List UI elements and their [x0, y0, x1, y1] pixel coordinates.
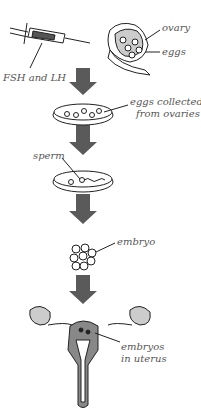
eggs-label: eggs	[162, 46, 186, 57]
embryo-label: embryo	[117, 236, 155, 247]
eggs-collected-label-2: from ovaries	[136, 108, 200, 119]
embryos-uterus-label-1: embryos	[121, 341, 164, 352]
ovary-label: ovary	[162, 22, 190, 33]
eggs-collected-label-1: eggs collected	[130, 96, 201, 107]
ivf-diagram	[0, 0, 201, 410]
sperm-label: sperm	[33, 150, 65, 161]
embryo-icon	[70, 243, 115, 270]
petri-dish-eggs-icon	[53, 104, 128, 125]
embryos-uterus-label-2: in uterus	[121, 353, 167, 364]
syringe-icon	[10, 23, 90, 68]
fsh-lh-label: FSH and LH	[3, 72, 66, 83]
petri-dish-fertilisation-icon	[53, 158, 113, 192]
ovary-icon	[108, 23, 160, 75]
